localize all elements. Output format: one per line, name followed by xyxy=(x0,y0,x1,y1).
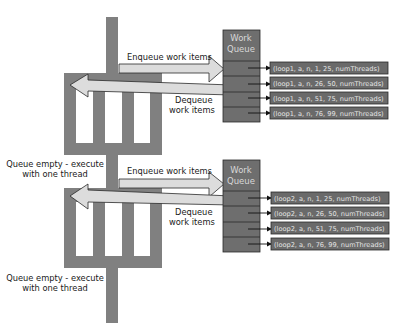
work-item-text: (loop1, a, n, 51, 75, numThreads) xyxy=(273,95,384,103)
work-item-text: (loop2, a, n, 1, 25, numThreads) xyxy=(274,195,380,203)
enqueue-label-2: Enqueue work items xyxy=(127,166,212,176)
work-item-list-2: (loop2, a, n, 1, 25, numThreads) (loop2,… xyxy=(248,192,389,250)
dequeue-label-2b: work items xyxy=(169,217,215,227)
work-queue-title-1a: Work xyxy=(230,33,252,43)
queue-empty-label-2b: with one thread xyxy=(22,283,88,293)
work-item-text: (loop1, a, n, 1, 25, numThreads) xyxy=(273,65,379,73)
work-queue-title-2b: Queue xyxy=(227,176,255,186)
queue-empty-label-1a: Queue empty - execute xyxy=(6,159,104,169)
main-thread-line-top xyxy=(106,17,118,77)
main-thread-line-bottom xyxy=(106,268,118,323)
main-thread-line-middle xyxy=(106,155,118,190)
work-item-list-1: (loop1, a, n, 1, 25, numThreads) (loop1,… xyxy=(248,62,388,119)
work-item-text: (loop1, a, n, 76, 99, numThreads) xyxy=(273,110,384,118)
work-item-text: (loop1, a, n, 26, 50, numThreads) xyxy=(273,80,384,88)
work-item-text: (loop2, a, n, 26, 50, numThreads) xyxy=(274,210,385,218)
enqueue-label-1: Enqueue work items xyxy=(127,52,212,62)
queue-empty-label-1b: with one thread xyxy=(22,169,88,179)
work-queue-title-2a: Work xyxy=(230,165,252,175)
dequeue-label-2a: Dequeue xyxy=(175,207,213,217)
dequeue-label-1b: work items xyxy=(169,105,215,115)
queue-empty-label-2a: Queue empty - execute xyxy=(6,273,104,283)
work-queue-diagram: Enqueue work items Dequeue work items Wo… xyxy=(0,0,405,331)
dequeue-label-1a: Dequeue xyxy=(175,95,213,105)
work-item-text: (loop2, a, n, 51, 75, numThreads) xyxy=(274,225,385,233)
work-queue-1: Work Queue xyxy=(223,30,260,122)
work-queue-2: Work Queue xyxy=(223,160,260,252)
work-item-text: (loop2, a, n, 76, 99, numThreads) xyxy=(274,241,385,249)
work-queue-title-1b: Queue xyxy=(227,44,255,54)
